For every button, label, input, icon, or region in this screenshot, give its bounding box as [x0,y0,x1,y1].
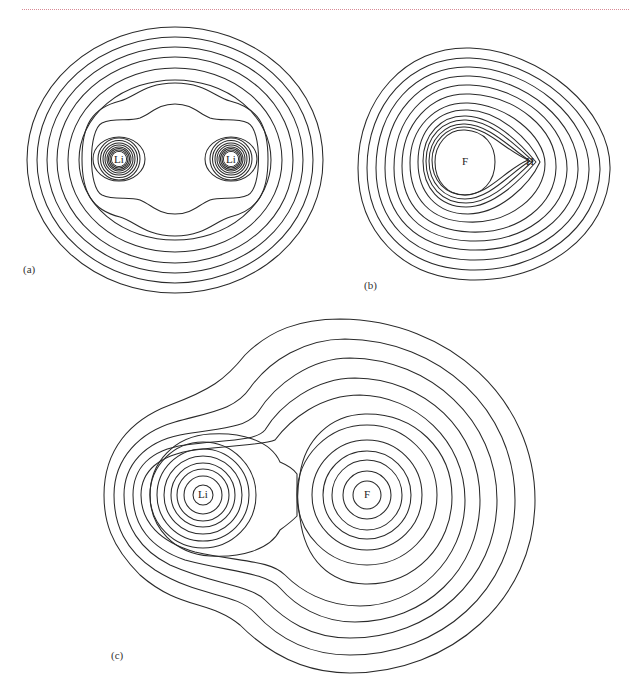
atom-label-f-c: F [364,488,370,500]
atom-label-li: Li [198,488,208,500]
panel-label-c: (c) [111,649,124,662]
atom-label-h: H [526,155,534,167]
panel-label-b: (b) [364,279,377,292]
atom-label-li-left: Li [114,153,124,165]
atom-label-li-right: Li [226,153,236,165]
panel-label-a: (a) [23,263,36,276]
panel-b-hf-contours [358,48,610,280]
panel-a-li2-contours [27,27,323,293]
electron-density-contour-figure: Li Li (a) F H (b) [0,0,629,686]
atom-label-f: F [462,155,468,167]
panel-c-lif-contours [104,319,535,673]
